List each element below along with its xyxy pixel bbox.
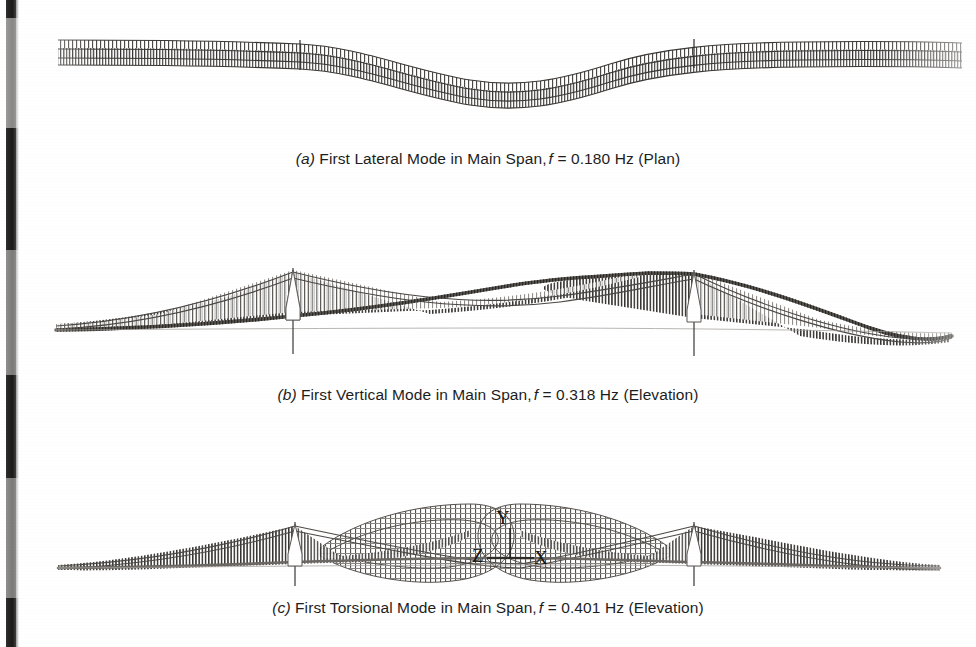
caption-panel-b: (b) First Vertical Mode in Main Span,f =… [0, 386, 976, 404]
caption-panel-c: (c) First Torsional Mode in Main Span,f … [0, 599, 976, 617]
caption-c-view: (Elevation) [628, 599, 703, 616]
caption-b-label: (b) [277, 386, 296, 403]
caption-a-freq-value: = 0.180 Hz [557, 150, 633, 167]
caption-c-text: First Torsional Mode in Main Span, [295, 599, 537, 616]
caption-b-text: First Vertical Mode in Main Span, [301, 386, 532, 403]
caption-b-view: (Elevation) [623, 386, 698, 403]
caption-c-freq-symbol: f [537, 599, 543, 616]
caption-b-freq-symbol: f [532, 386, 538, 403]
panel-a-artwork [0, 18, 976, 128]
caption-a-text: First Lateral Mode in Main Span, [319, 150, 546, 167]
caption-panel-a: (a) First Lateral Mode in Main Span,f = … [0, 150, 976, 168]
axis-label-x: X [534, 548, 548, 567]
caption-b-freq-value: = 0.318 Hz [543, 386, 619, 403]
panel-a-lateral-mode [0, 18, 976, 128]
panel-b-vertical-mode [0, 250, 976, 375]
panel-c-artwork: Y Z X [0, 478, 976, 598]
caption-a-freq-symbol: f [547, 150, 553, 167]
panel-b-artwork [0, 250, 976, 375]
caption-c-freq-value: = 0.401 Hz [548, 599, 624, 616]
caption-c-label: (c) [272, 599, 290, 616]
caption-a-view: (Plan) [638, 150, 680, 167]
panel-c-torsional-mode: Y Z X [0, 478, 976, 598]
figure-page: (a) First Lateral Mode in Main Span,f = … [0, 0, 976, 647]
caption-a-label: (a) [296, 150, 315, 167]
axis-label-y: Y [496, 508, 510, 527]
axis-label-z: Z [472, 546, 484, 565]
